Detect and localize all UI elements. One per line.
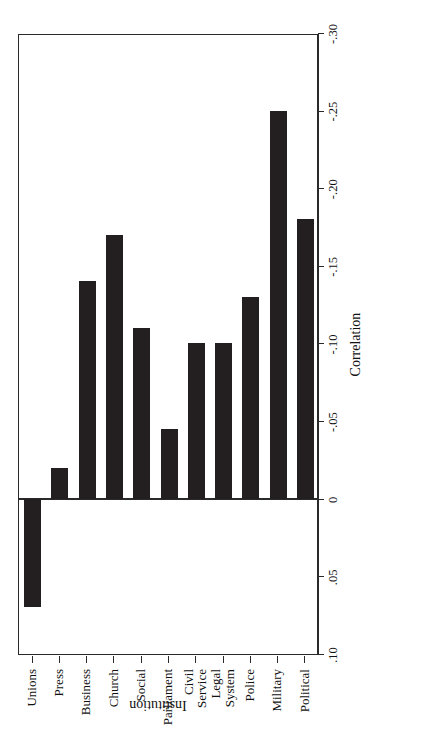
institution-axis-tick bbox=[250, 656, 251, 663]
bar-chart-figure: Correlation Institution .10.050-.05-.10-… bbox=[0, 0, 423, 733]
institution-axis-tick-label-line: Press bbox=[52, 669, 66, 733]
institution-axis-tick-label-line: Social bbox=[134, 669, 148, 733]
correlation-axis-tick bbox=[318, 33, 324, 34]
institution-axis-tick-label: CivilService bbox=[182, 665, 209, 733]
plot-area bbox=[18, 34, 318, 655]
correlation-axis-tick-label: -.25 bbox=[326, 89, 340, 135]
correlation-axis-tick-label: -.15 bbox=[326, 244, 340, 290]
institution-axis-tick-label-line: Unions bbox=[25, 669, 39, 733]
correlation-axis-tick-label: -.20 bbox=[326, 166, 340, 212]
institution-axis-tick-label: Unions bbox=[25, 665, 39, 733]
correlation-axis-tick-label: 0 bbox=[326, 477, 340, 523]
bar bbox=[79, 281, 96, 498]
correlation-axis-tick-label: -.05 bbox=[326, 399, 340, 445]
institution-axis-tick-label-line: Police bbox=[243, 669, 257, 733]
rotated-figure-container: Correlation Institution .10.050-.05-.10-… bbox=[0, 0, 423, 733]
bar bbox=[106, 235, 123, 499]
correlation-axis-line bbox=[318, 34, 319, 655]
institution-axis-tick-label: Business bbox=[79, 665, 93, 733]
bar bbox=[297, 219, 314, 498]
bar bbox=[51, 468, 68, 499]
bar bbox=[215, 344, 232, 499]
institution-axis-tick-label: Press bbox=[52, 665, 66, 733]
institution-axis-tick-label-line: Service bbox=[195, 669, 209, 733]
institution-axis-tick-label: Police bbox=[243, 665, 257, 733]
correlation-axis-tick-label: -.30 bbox=[326, 11, 340, 57]
bar bbox=[24, 499, 41, 608]
bar bbox=[133, 328, 150, 499]
correlation-axis-tick bbox=[318, 344, 324, 345]
bar bbox=[188, 344, 205, 499]
correlation-axis-tick bbox=[318, 499, 324, 500]
institution-axis-tick-label: Social bbox=[134, 665, 148, 733]
correlation-axis-tick-label: .05 bbox=[326, 554, 340, 600]
institution-axis-tick-label-line: Military bbox=[270, 669, 284, 733]
institution-axis-tick-label-line: Parliament bbox=[161, 669, 175, 733]
correlation-axis-tick-label: -.10 bbox=[326, 322, 340, 368]
bar bbox=[242, 297, 259, 499]
institution-axis-tick-label: Church bbox=[107, 665, 121, 733]
institution-axis-tick bbox=[195, 656, 196, 663]
institution-axis-tick bbox=[141, 656, 142, 663]
institution-axis-tick-label-line: Political bbox=[298, 669, 312, 733]
institution-axis-tick-label-line: System bbox=[223, 669, 237, 733]
correlation-axis-tick bbox=[318, 421, 324, 422]
correlation-axis-tick bbox=[318, 654, 324, 655]
institution-axis-tick-label-line: Civil bbox=[182, 669, 196, 733]
institution-axis-tick-label: Parliament bbox=[161, 665, 175, 733]
institution-axis-tick-label: LegalSystem bbox=[209, 665, 236, 733]
institution-axis-tick bbox=[59, 656, 60, 663]
institution-axis-tick bbox=[223, 656, 224, 663]
institution-axis-tick bbox=[32, 656, 33, 663]
institution-axis-tick bbox=[277, 656, 278, 663]
institution-axis-tick-label-line: Legal bbox=[209, 669, 223, 733]
institution-axis-tick bbox=[86, 656, 87, 663]
institution-axis-tick bbox=[304, 656, 305, 663]
bar bbox=[270, 111, 287, 499]
institution-axis-tick bbox=[168, 656, 169, 663]
institution-axis-tick bbox=[113, 656, 114, 663]
correlation-axis-tick-label: .10 bbox=[326, 632, 340, 678]
institution-axis-tick-label: Political bbox=[298, 665, 312, 733]
correlation-axis-title: Correlation bbox=[348, 34, 364, 655]
correlation-axis-tick bbox=[318, 576, 324, 577]
correlation-axis-tick bbox=[318, 111, 324, 112]
institution-axis-tick-label-line: Church bbox=[107, 669, 121, 733]
correlation-axis-tick bbox=[318, 188, 324, 189]
institution-axis-tick-label: Military bbox=[270, 665, 284, 733]
institution-axis-tick-label-line: Business bbox=[79, 669, 93, 733]
correlation-axis-tick bbox=[318, 266, 324, 267]
bar bbox=[161, 429, 178, 499]
